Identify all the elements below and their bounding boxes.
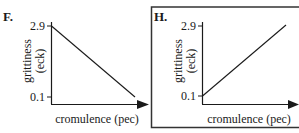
ylabel-h-line1: grittiness <box>171 39 185 83</box>
data-line-h <box>203 25 287 96</box>
ylabel-f: grittiness (eck) <box>20 39 47 83</box>
ytick-label-top-f: 2.9 <box>30 19 45 33</box>
ylabel-f-line1: grittiness <box>20 39 34 83</box>
ytick-label-top-h: 2.9 <box>181 19 196 33</box>
ylabel-f-line2: (eck) <box>33 49 47 74</box>
x-axis-arrow-icon <box>137 100 149 109</box>
x-axis-arrow-icon <box>288 100 299 109</box>
ytick-label-bottom-f: 0.1 <box>30 90 45 104</box>
xlabel-h: cromulence (pec) <box>207 112 291 126</box>
chart-f-svg: F. 2.9 0.1 grittiness (eck) cromulence (… <box>0 0 150 133</box>
panel-label-f: F. <box>3 9 13 24</box>
ylabel-h: grittiness (eck) <box>171 39 198 83</box>
data-line-f <box>52 26 136 97</box>
chart-panel-f: F. 2.9 0.1 grittiness (eck) cromulence (… <box>0 0 150 133</box>
panel-label-h: H. <box>154 9 167 24</box>
chart-h-svg: H. 2.9 0.1 grittiness (eck) cromulence (… <box>150 0 299 133</box>
ytick-label-bottom-h: 0.1 <box>181 89 196 103</box>
chart-panel-h: H. 2.9 0.1 grittiness (eck) cromulence (… <box>150 0 299 133</box>
xlabel-f: cromulence (pec) <box>55 112 139 126</box>
ylabel-h-line2: (eck) <box>184 49 198 74</box>
